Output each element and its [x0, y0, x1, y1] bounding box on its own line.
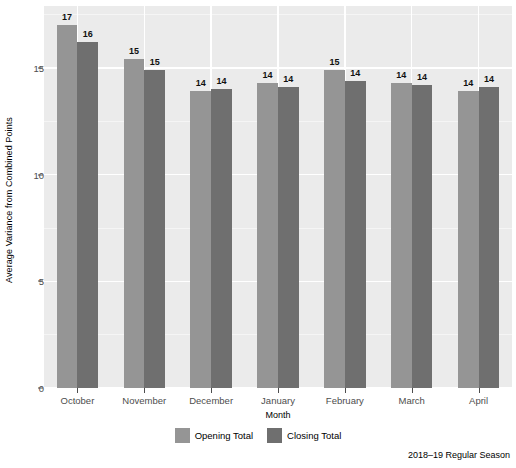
bar-value-label: 14 [283, 74, 293, 84]
bar-closing [144, 70, 165, 388]
bar-value-label: 14 [417, 72, 427, 82]
x-tick-mark [412, 388, 413, 393]
bar-opening [57, 25, 78, 388]
chart-legend: Opening TotalClosing Total [0, 428, 516, 443]
x-tick-mark [211, 388, 212, 393]
x-tick-label: November [122, 395, 166, 406]
y-axis: 051015 [0, 0, 44, 468]
bar-opening [190, 91, 211, 388]
legend-swatch-icon [267, 428, 282, 443]
x-tick-mark [278, 388, 279, 393]
x-axis-title: Month [44, 410, 512, 420]
bar-value-label: 14 [396, 70, 406, 80]
x-tick-label: March [399, 395, 425, 406]
y-tick-mark [38, 67, 43, 68]
bar-closing [77, 42, 98, 388]
x-tick-mark [479, 388, 480, 393]
bar-closing [211, 89, 232, 388]
x-tick-label: February [326, 395, 364, 406]
legend-swatch-icon [175, 428, 190, 443]
y-tick-mark [38, 174, 43, 175]
y-tick-mark [38, 388, 43, 389]
bar-opening [458, 91, 479, 388]
bar-value-label: 14 [216, 76, 226, 86]
bar-closing [278, 87, 299, 388]
legend-label: Closing Total [287, 430, 341, 441]
bar-opening [324, 70, 345, 388]
bar-closing [479, 87, 500, 388]
x-tick-label: October [61, 395, 95, 406]
bar-value-label: 14 [350, 68, 360, 78]
bar-opening [391, 83, 412, 388]
legend-item[interactable]: Closing Total [267, 428, 341, 443]
bar-value-label: 15 [129, 46, 139, 56]
chart-caption: 2018–19 Regular Season [408, 450, 510, 460]
x-tick-mark [144, 388, 145, 393]
legend-label: Opening Total [195, 430, 253, 441]
bar-closing [412, 85, 433, 388]
bar-opening [257, 83, 278, 388]
bar-value-label: 15 [329, 57, 339, 67]
bar-value-label: 15 [150, 57, 160, 67]
bar-value-label: 17 [62, 12, 72, 22]
bar-opening [124, 59, 145, 388]
x-tick-label: December [189, 395, 233, 406]
y-tick-mark [38, 281, 43, 282]
x-tick-mark [345, 388, 346, 393]
x-tick-label: January [261, 395, 295, 406]
bar-value-label: 14 [263, 70, 273, 80]
bar-value-label: 14 [196, 78, 206, 88]
bar-value-label: 14 [463, 78, 473, 88]
bar-value-label: 14 [484, 74, 494, 84]
bar-value-label: 16 [83, 29, 93, 39]
legend-item[interactable]: Opening Total [175, 428, 253, 443]
x-tick-label: April [469, 395, 488, 406]
bar-closing [345, 81, 366, 388]
plot-panel: 1716151514141414151414141414 [44, 6, 512, 388]
x-tick-mark [77, 388, 78, 393]
bar-chart: Average Variance from Combined Points 05… [0, 0, 516, 468]
